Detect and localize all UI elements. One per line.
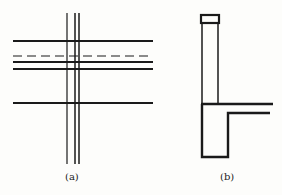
caption-b: (b) — [220, 171, 234, 182]
panel-a — [13, 13, 153, 164]
footing-outline — [202, 104, 270, 157]
diagram-canvas — [0, 0, 282, 195]
panel-b — [201, 15, 273, 157]
caption-a: (a) — [65, 171, 79, 182]
cap-box — [201, 15, 219, 23]
